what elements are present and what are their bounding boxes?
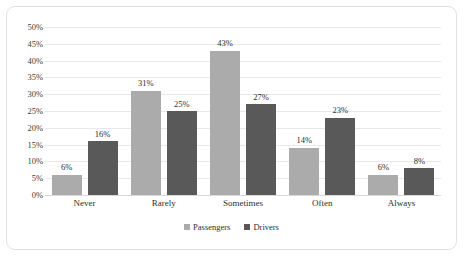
bar-rarely-passengers[interactable] bbox=[131, 91, 161, 195]
bar-wrapper: 8% bbox=[404, 27, 434, 195]
legend-item-passengers[interactable]: Passengers bbox=[184, 223, 230, 232]
bar-value-label: 8% bbox=[414, 157, 425, 166]
y-axis-tick-label: 30% bbox=[9, 90, 43, 99]
bar-wrapper: 23% bbox=[325, 27, 355, 195]
bar-always-drivers[interactable] bbox=[404, 168, 434, 195]
bar-wrapper: 16% bbox=[88, 27, 118, 195]
bar-value-label: 31% bbox=[138, 79, 154, 88]
bar-never-passengers[interactable] bbox=[52, 175, 82, 195]
y-axis-tick-label: 0% bbox=[9, 191, 43, 200]
bar-sometimes-passengers[interactable] bbox=[210, 51, 240, 195]
bar-value-label: 6% bbox=[378, 163, 389, 172]
bar-group-always: 6%8% bbox=[362, 27, 441, 195]
x-axis-tick-label-sometimes: Sometimes bbox=[203, 199, 282, 208]
gridline bbox=[45, 195, 441, 196]
y-axis-tick-label: 50% bbox=[9, 23, 43, 32]
y-axis: 0%5%10%15%20%25%30%35%40%45%50% bbox=[7, 27, 43, 195]
bar-value-label: 25% bbox=[174, 100, 190, 109]
bar-value-label: 27% bbox=[253, 93, 269, 102]
bar-value-label: 23% bbox=[332, 106, 348, 115]
bar-sometimes-drivers[interactable] bbox=[246, 104, 276, 195]
y-axis-tick-label: 25% bbox=[9, 107, 43, 116]
x-axis-tick-label-often: Often bbox=[283, 199, 362, 208]
bar-value-label: 14% bbox=[296, 136, 312, 145]
legend-swatch-icon bbox=[244, 224, 250, 230]
bar-often-drivers[interactable] bbox=[325, 118, 355, 195]
y-axis-tick-label: 5% bbox=[9, 174, 43, 183]
bar-group-sometimes: 43%27% bbox=[203, 27, 282, 195]
legend-label: Drivers bbox=[253, 223, 279, 232]
bar-wrapper: 43% bbox=[210, 27, 240, 195]
bar-group-rarely: 31%25% bbox=[124, 27, 203, 195]
y-axis-tick-label: 10% bbox=[9, 157, 43, 166]
legend-item-drivers[interactable]: Drivers bbox=[244, 223, 279, 232]
bar-value-label: 43% bbox=[217, 39, 233, 48]
x-axis: NeverRarelySometimesOftenAlways bbox=[45, 199, 441, 208]
bar-wrapper: 14% bbox=[289, 27, 319, 195]
y-axis-tick-label: 45% bbox=[9, 40, 43, 49]
bars-layer: 6%16%31%25%43%27%14%23%6%8% bbox=[45, 27, 441, 195]
legend-swatch-icon bbox=[184, 224, 190, 230]
bar-wrapper: 6% bbox=[368, 27, 398, 195]
bar-wrapper: 27% bbox=[246, 27, 276, 195]
bar-always-passengers[interactable] bbox=[368, 175, 398, 195]
chart-legend: PassengersDrivers bbox=[7, 223, 456, 232]
y-axis-tick-label: 15% bbox=[9, 140, 43, 149]
bar-wrapper: 6% bbox=[52, 27, 82, 195]
bar-group-often: 14%23% bbox=[283, 27, 362, 195]
bar-rarely-drivers[interactable] bbox=[167, 111, 197, 195]
bar-group-never: 6%16% bbox=[45, 27, 124, 195]
bar-value-label: 6% bbox=[61, 163, 72, 172]
legend-label: Passengers bbox=[193, 223, 230, 232]
y-axis-tick-label: 20% bbox=[9, 124, 43, 133]
x-axis-tick-label-always: Always bbox=[362, 199, 441, 208]
y-axis-tick-label: 35% bbox=[9, 73, 43, 82]
bar-value-label: 16% bbox=[95, 130, 111, 139]
x-axis-tick-label-rarely: Rarely bbox=[124, 199, 203, 208]
bar-wrapper: 25% bbox=[167, 27, 197, 195]
y-axis-tick-label: 40% bbox=[9, 56, 43, 65]
chart-frame: 0%5%10%15%20%25%30%35%40%45%50% 6%16%31%… bbox=[6, 6, 457, 250]
bar-often-passengers[interactable] bbox=[289, 148, 319, 195]
bar-never-drivers[interactable] bbox=[88, 141, 118, 195]
bar-wrapper: 31% bbox=[131, 27, 161, 195]
x-axis-tick-label-never: Never bbox=[45, 199, 124, 208]
